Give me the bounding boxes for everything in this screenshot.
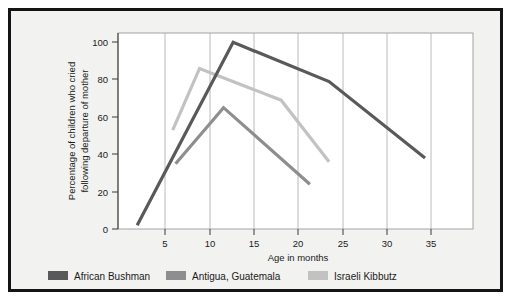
y-axis-title-line2: following departure of mother — [79, 69, 90, 192]
y-tick-label: 60 — [97, 112, 108, 123]
line-chart: 100 80 60 40 20 0 — [11, 11, 500, 289]
x-tick-label: 30 — [382, 238, 393, 249]
y-tick-label: 100 — [92, 37, 108, 48]
y-tick-label: 20 — [97, 187, 108, 198]
x-tick-label: 25 — [338, 238, 349, 249]
screenshot-root: 100 80 60 40 20 0 — [0, 0, 519, 301]
legend-label-antigua-guatemala: Antigua, Guatemala — [192, 271, 281, 282]
legend-swatch-antigua-guatemala — [166, 271, 186, 280]
x-tick-label: 20 — [293, 238, 304, 249]
x-axis-title: Age in months — [268, 252, 329, 263]
x-axis — [165, 229, 431, 235]
legend-label-african-bushman: African Bushman — [74, 271, 150, 282]
chart-svg: 100 80 60 40 20 0 — [11, 11, 500, 289]
y-tick-labels: 100 80 60 40 20 0 — [92, 37, 108, 235]
chart-legend: African Bushman Antigua, Guatemala Israe… — [48, 271, 397, 282]
y-tick-label: 40 — [97, 149, 108, 160]
y-tick-label: 0 — [103, 224, 108, 235]
y-axis — [112, 33, 118, 229]
x-tick-label: 15 — [249, 238, 260, 249]
x-tick-label: 5 — [162, 238, 167, 249]
legend-swatch-israeli-kibbutz — [308, 271, 328, 280]
x-tick-label: 10 — [205, 238, 216, 249]
x-tick-label: 35 — [426, 238, 437, 249]
y-axis-title-line1: Percentage of children who cried — [66, 62, 77, 200]
plot-panel — [118, 33, 473, 229]
x-tick-labels: 5 10 15 20 25 30 35 — [162, 238, 436, 249]
figure-frame: 100 80 60 40 20 0 — [8, 8, 503, 292]
legend-swatch-african-bushman — [48, 271, 68, 280]
y-tick-label: 80 — [97, 74, 108, 85]
legend-label-israeli-kibbutz: Israeli Kibbutz — [334, 271, 397, 282]
y-axis-title: Percentage of children who cried followi… — [66, 62, 90, 200]
